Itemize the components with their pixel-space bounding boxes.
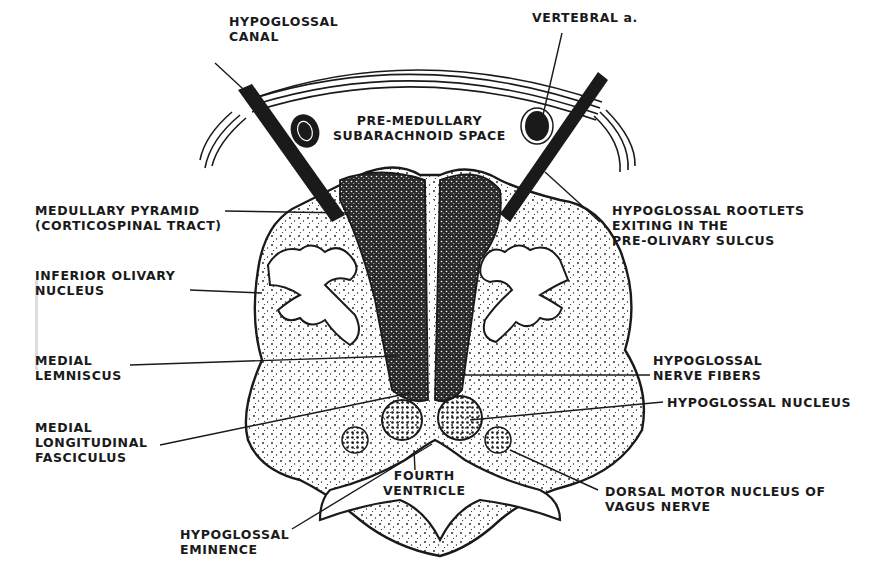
label-hypoglossal-nerve-fibers: HYPOGLOSSAL NERVE FIBERS <box>653 353 762 383</box>
vertebral-artery-right <box>525 111 549 141</box>
label-medial-longitudinal-fasciculus: MEDIAL LONGITUDINAL FASCICULUS <box>35 420 148 465</box>
hypoglossal-nucleus-left <box>382 400 422 440</box>
label-medullary-pyramid: MEDULLARY PYRAMID (CORTICOSPINAL TRACT) <box>35 203 222 233</box>
label-hypoglossal-rootlets: HYPOGLOSSAL ROOTLETS EXITING IN THE PRE-… <box>612 203 805 248</box>
label-hypoglossal-eminence: HYPOGLOSSAL EMINENCE <box>180 527 289 557</box>
label-fourth-ventricle: FOURTH VENTRICLE <box>383 468 466 498</box>
label-vertebral-artery: VERTEBRAL a. <box>532 10 638 25</box>
label-hypoglossal-nucleus: HYPOGLOSSAL NUCLEUS <box>667 395 851 410</box>
label-dorsal-motor-nucleus: DORSAL MOTOR NUCLEUS OF VAGUS NERVE <box>605 484 826 514</box>
label-inferior-olivary-nucleus: INFERIOR OLIVARY NUCLEUS <box>35 268 175 298</box>
label-hypoglossal-canal: HYPOGLOSSAL CANAL <box>229 14 338 44</box>
label-premedullary-space: PRE-MEDULLARY SUBARACHNOID SPACE <box>333 113 506 143</box>
dorsal-motor-nucleus-left <box>342 427 368 453</box>
dorsal-motor-nucleus-right <box>485 427 511 453</box>
hypoglossal-rootlet-left <box>238 84 345 222</box>
label-medial-lemniscus: MEDIAL LEMNISCUS <box>35 353 122 383</box>
hypoglossal-nucleus-right <box>438 396 482 440</box>
